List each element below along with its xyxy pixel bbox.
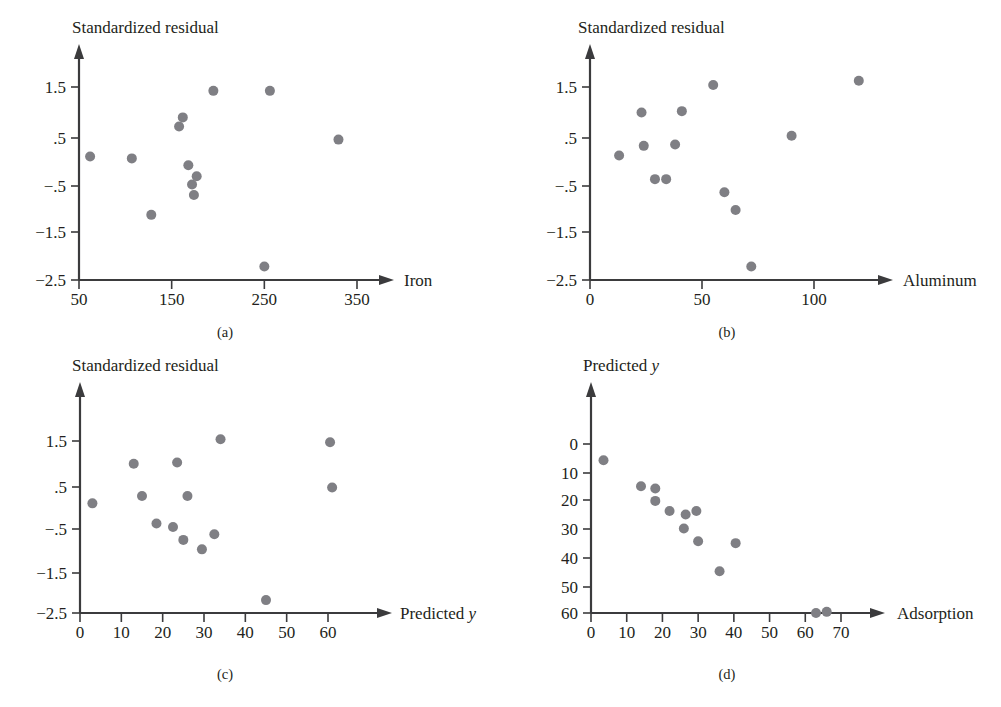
data-point [650,174,660,184]
data-point [731,205,741,215]
x-tick-label: 40 [725,623,742,642]
data-point [182,491,192,501]
y-tick-label: 1.5 [556,78,577,97]
data-point [178,112,188,122]
y-tick-label: .5 [54,478,67,497]
y-tick-label: −1.5 [36,564,67,583]
x-tick-label: 0 [76,623,85,642]
y-tick-label: 60 [561,604,578,623]
data-point [325,437,335,447]
data-point [787,131,797,141]
chart-panel-a: 1.5.5−.5−1.5−2.550150250350Standardized … [0,0,500,353]
data-point [261,595,271,605]
data-point [168,522,178,532]
figure-panel-grid: 1.5.5−.5−1.5−2.550150250350Standardized … [0,0,1001,707]
data-point [209,529,219,539]
x-axis-arrow-icon [870,608,885,618]
data-point [183,160,193,170]
y-axis-title: Predicted y [583,356,659,375]
data-point [216,434,226,444]
y-axis-arrow-icon [586,382,596,397]
y-axis-arrow-icon [74,44,84,59]
y-axis-title: Standardized residual [578,18,725,37]
y-tick-label: −2.5 [546,271,577,290]
y-tick-label: 0 [570,435,579,454]
data-point [265,86,275,96]
x-tick-label: 50 [71,290,88,309]
panel-caption: (c) [217,666,233,683]
data-point-group [87,434,337,605]
data-point [637,108,647,118]
data-point [87,498,97,508]
data-point [85,151,95,161]
data-point [731,538,741,548]
x-tick-label: 250 [252,290,278,309]
y-tick-label: 20 [561,491,578,510]
x-axis-title: Predicted y [400,604,476,623]
data-point [811,608,821,618]
x-tick-label: 10 [618,623,635,642]
data-point [127,153,137,163]
data-point [650,496,660,506]
x-tick-label: 50 [278,623,295,642]
data-point [854,76,864,86]
data-point [746,261,756,271]
data-point [693,536,703,546]
chart-panel-b: 1.5.5−.5−1.5−2.5050100Standardized resid… [501,0,1001,353]
data-point [137,491,147,501]
y-tick-label: 1.5 [45,78,66,97]
x-tick-label: 20 [654,623,671,642]
data-point [208,86,218,96]
y-tick-label: .5 [564,129,577,148]
data-point [708,80,718,90]
panel-caption: (b) [719,324,736,341]
data-point [333,135,343,145]
y-axis-title: Standardized residual [72,356,219,375]
x-axis-title: Aluminum [903,271,977,290]
x-tick-label: 60 [320,623,337,642]
x-axis-arrow-icon [377,608,392,618]
x-axis-title: Iron [404,271,433,290]
x-tick-label: 60 [797,623,814,642]
data-point [715,566,725,576]
data-point [189,190,199,200]
data-point [151,519,161,529]
scatter-plot-c: 1.5.5−.5−1.5−2.50102030405060Standardize… [0,354,500,707]
y-tick-label: −1.5 [546,223,577,242]
y-tick-label: −.5 [555,177,577,196]
data-point [636,481,646,491]
scatter-plot-d: 0102030405060010203040506070Predicted yA… [501,354,1001,707]
data-point [691,506,701,516]
x-tick-label: 10 [113,623,130,642]
y-tick-label: −.5 [45,520,67,539]
y-tick-label: −.5 [44,177,66,196]
x-tick-label: 350 [344,290,370,309]
data-point [178,535,188,545]
data-point [681,509,691,519]
data-point [129,459,139,469]
x-axis-arrow-icon [379,275,394,285]
y-axis-arrow-icon [75,382,85,397]
y-tick-label: 40 [561,549,578,568]
data-point [259,261,269,271]
data-point [822,607,832,617]
x-tick-label: 40 [237,623,254,642]
x-tick-label: 50 [694,290,711,309]
y-tick-label: 30 [561,520,578,539]
x-tick-label: 70 [833,623,850,642]
y-axis-title: Standardized residual [72,18,219,37]
data-point [665,506,675,516]
data-point-group [85,86,343,272]
data-point [172,458,182,468]
x-tick-label: 100 [801,290,827,309]
x-tick-label: 150 [159,290,185,309]
data-point [670,139,680,149]
panel-caption: (a) [217,324,233,341]
y-tick-label: −2.5 [36,604,67,623]
data-point [192,171,202,181]
x-axis-arrow-icon [878,275,893,285]
data-point-group [614,76,864,272]
data-point [174,122,184,132]
y-tick-label: .5 [53,129,66,148]
x-axis-title: Adsorption [897,604,974,623]
